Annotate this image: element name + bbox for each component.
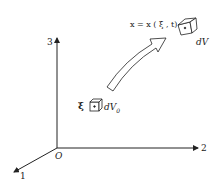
axis-1 bbox=[14, 148, 57, 172]
reference-point-label: ξ bbox=[78, 101, 84, 111]
diagram-graphics bbox=[0, 0, 219, 189]
reference-volume-cube-icon bbox=[90, 99, 102, 111]
axis-1-label: 1 bbox=[20, 172, 26, 181]
mapping-label: x = x ( ξ , t) bbox=[130, 21, 177, 29]
current-volume-label: dV bbox=[196, 38, 208, 47]
current-volume-cube-icon bbox=[178, 18, 197, 35]
deformation-diagram: 3 2 1 O ξ dV0 x = x ( ξ , t) dV bbox=[0, 0, 219, 189]
origin-label: O bbox=[55, 152, 62, 161]
mapping-arrow bbox=[107, 38, 166, 91]
axis-2-label: 2 bbox=[201, 144, 207, 153]
reference-volume-label: dV0 bbox=[104, 103, 120, 114]
axis-3-label: 3 bbox=[47, 38, 53, 47]
